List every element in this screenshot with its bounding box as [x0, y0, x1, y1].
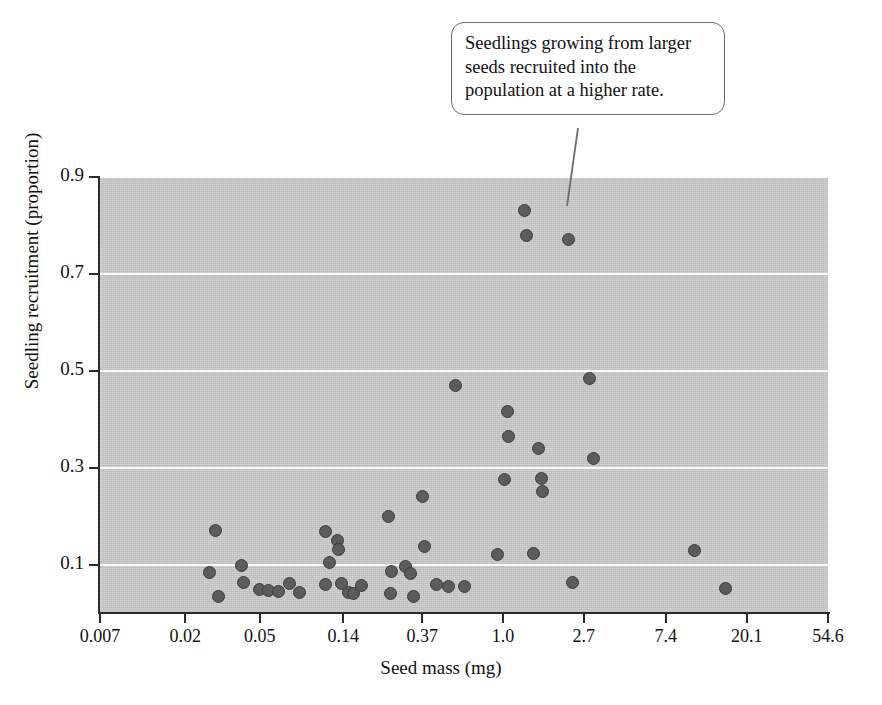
x-tick-mark [342, 614, 344, 623]
data-point [587, 452, 600, 465]
data-point [404, 567, 417, 580]
y-tick-mark [89, 176, 98, 178]
data-point [719, 582, 732, 595]
data-point [237, 576, 250, 589]
data-point [583, 372, 596, 385]
data-point [385, 565, 398, 578]
gridline-y [100, 564, 828, 566]
plot-area [100, 177, 828, 613]
x-tick-mark [583, 614, 585, 623]
data-point [323, 556, 336, 569]
data-point [384, 587, 397, 600]
data-point [407, 590, 420, 603]
x-tick-mark [259, 614, 261, 623]
x-tick-label: 20.1 [702, 626, 792, 647]
x-tick-label: 0.007 [55, 626, 145, 647]
x-tick-label: 54.6 [783, 626, 873, 647]
data-point [416, 490, 429, 503]
x-axis-label: Seed mass (mg) [0, 657, 882, 679]
gridline-y [100, 273, 828, 275]
y-tick-label: 0.3 [30, 455, 84, 477]
data-point [532, 442, 545, 455]
data-point [498, 473, 511, 486]
data-point [319, 578, 332, 591]
x-tick-label: 1.0 [458, 626, 548, 647]
x-axis-line [98, 612, 830, 614]
y-tick-mark [89, 467, 98, 469]
x-tick-label: 0.37 [377, 626, 467, 647]
data-point [212, 590, 225, 603]
plot-background-texture [100, 177, 828, 613]
x-tick-mark [99, 614, 101, 623]
x-tick-label: 2.7 [539, 626, 629, 647]
gridline-y [100, 177, 828, 178]
data-point [491, 548, 504, 561]
data-point [502, 430, 515, 443]
gridline-y [100, 467, 828, 469]
x-tick-mark [827, 614, 829, 623]
data-point [520, 229, 533, 242]
data-point [449, 379, 462, 392]
data-point [430, 578, 443, 591]
y-tick-mark [89, 370, 98, 372]
y-axis-label: Seedling recruitment (proportion) [21, 111, 43, 411]
data-point [562, 233, 575, 246]
annotation-callout: Seedlings growing from larger seeds recr… [451, 22, 725, 115]
x-tick-mark [665, 614, 667, 623]
data-point [209, 524, 222, 537]
data-point [293, 586, 306, 599]
data-point [688, 544, 701, 557]
x-tick-mark [421, 614, 423, 623]
x-tick-mark [746, 614, 748, 623]
y-tick-mark [89, 564, 98, 566]
y-axis-line [98, 176, 100, 614]
data-point [501, 405, 514, 418]
data-point [319, 525, 332, 538]
y-tick-mark [89, 273, 98, 275]
x-tick-mark [184, 614, 186, 623]
y-tick-label: 0.1 [30, 552, 84, 574]
data-point [566, 576, 579, 589]
data-point [418, 540, 431, 553]
data-point [518, 204, 531, 217]
data-point [527, 547, 540, 560]
x-tick-mark [502, 614, 504, 623]
data-point [536, 485, 549, 498]
gridline-y [100, 370, 828, 372]
data-point [442, 580, 455, 593]
x-tick-label: 0.14 [298, 626, 388, 647]
scatter-plot-figure: 0.10.30.50.70.9 0.0070.020.050.140.371.0… [0, 0, 882, 705]
data-point [535, 472, 548, 485]
data-point [458, 580, 471, 593]
data-point [203, 566, 216, 579]
x-tick-label: 7.4 [621, 626, 711, 647]
data-point [355, 579, 368, 592]
data-point [382, 510, 395, 523]
data-point [332, 543, 345, 556]
x-tick-label: 0.05 [215, 626, 305, 647]
data-point [235, 559, 248, 572]
